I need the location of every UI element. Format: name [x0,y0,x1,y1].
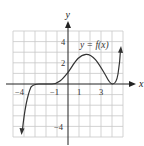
svg-text:−4: −4 [15,87,25,97]
svg-text:−4: −4 [54,122,64,132]
x-axis-label: x [138,78,144,89]
function-curve [22,50,120,131]
svg-text:−1: −1 [50,87,59,97]
function-label: y = f(x) [79,40,109,51]
svg-text:3: 3 [99,87,103,97]
curve-end-arrow-right-icon [118,46,123,53]
svg-text:2: 2 [61,58,65,68]
svg-text:1: 1 [77,87,81,97]
svg-text:4: 4 [61,37,66,47]
axes [6,26,132,145]
function-graph: x y −4 −1 1 3 4 2 −4 y = f(x) [0,0,144,146]
x-axis-arrow-icon [129,81,136,87]
y-axis-arrow-icon [65,21,71,28]
y-axis-label: y [65,9,71,20]
